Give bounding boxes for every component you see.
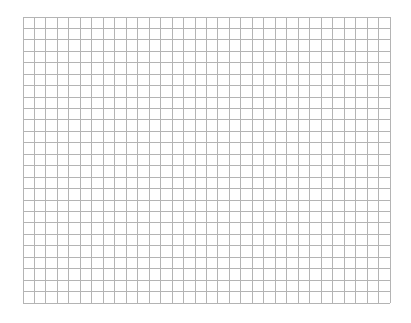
grid-paper [0, 0, 411, 323]
